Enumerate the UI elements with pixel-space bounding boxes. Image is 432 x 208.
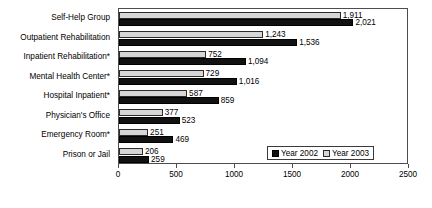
bar-value-label: 1,536 (297, 38, 320, 47)
bar-year-2003 (119, 70, 204, 77)
bar-row: 251 (119, 129, 407, 136)
x-axis-tick-label: 1000 (225, 170, 243, 179)
category-label: Prison or Jail (0, 150, 110, 159)
bar-row: 1,016 (119, 78, 407, 85)
bar-group: 7291,016 (119, 68, 407, 88)
bar-row: 587 (119, 90, 407, 97)
bar-value-label: 1,016 (237, 77, 260, 86)
y-axis-category-labels: Self-Help GroupOutpatient Rehabilitation… (0, 8, 114, 164)
bar-row: 2,021 (119, 19, 407, 26)
bar-row: 859 (119, 97, 407, 104)
bar-group: 587859 (119, 87, 407, 107)
bar-value-label: 259 (149, 155, 165, 164)
legend-entry[interactable]: Year 2003 (323, 149, 369, 158)
bar-value-label: 859 (219, 96, 235, 105)
bar-year-2002 (119, 156, 149, 163)
x-axis-tick-label: 0 (116, 170, 121, 179)
legend-swatch-icon (323, 150, 330, 157)
x-axis-tick (292, 164, 293, 168)
bar-group: 1,2431,536 (119, 29, 407, 49)
category-label: Self-Help Group (0, 13, 110, 22)
bar-year-2002 (119, 39, 297, 46)
bar-row: 729 (119, 70, 407, 77)
x-axis-tick (408, 164, 409, 168)
category-label: Mental Health Center* (0, 72, 110, 81)
bar-year-2003 (119, 31, 263, 38)
chart-legend: Year 2002Year 2003 (267, 146, 374, 160)
bar-group: 1,9112,021 (119, 9, 407, 29)
bar-value-label: 469 (173, 135, 189, 144)
x-axis-tick-label: 2500 (399, 170, 417, 179)
bar-row: 1,536 (119, 39, 407, 46)
bar-value-label: 523 (180, 116, 196, 125)
bar-year-2002 (119, 58, 246, 65)
x-axis-tick (350, 164, 351, 168)
bar-year-2003 (119, 12, 341, 19)
bar-group: 7521,094 (119, 48, 407, 68)
bar-year-2002 (119, 97, 219, 104)
category-label: Outpatient Rehabilitation (0, 33, 110, 42)
category-label: Inpatient Rehabilitation* (0, 52, 110, 61)
bar-value-label: 1,094 (246, 57, 269, 66)
x-axis-tick (234, 164, 235, 168)
bar-year-2002 (119, 19, 353, 26)
x-axis-tick-label: 500 (169, 170, 183, 179)
bar-year-2003 (119, 129, 148, 136)
legend-swatch-icon (272, 150, 279, 157)
bar-group: 377523 (119, 107, 407, 127)
bar-value-label: 2,021 (353, 18, 376, 27)
bar-row: 1,243 (119, 31, 407, 38)
bar-year-2003 (119, 148, 143, 155)
x-axis-tick (118, 164, 119, 168)
legend-entry[interactable]: Year 2002 (272, 149, 318, 158)
legend-label: Year 2003 (332, 149, 369, 158)
legend-label: Year 2002 (281, 149, 318, 158)
bar-year-2002 (119, 78, 237, 85)
bar-group: 251469 (119, 126, 407, 146)
bar-year-2003 (119, 51, 206, 58)
bar-row: 1,094 (119, 58, 407, 65)
x-axis-tick-label: 2000 (341, 170, 359, 179)
bar-row: 523 (119, 117, 407, 124)
x-axis-tick (176, 164, 177, 168)
x-axis-tick-label: 1500 (283, 170, 301, 179)
category-label: Emergency Room* (0, 130, 110, 139)
bar-chart: Self-Help GroupOutpatient Rehabilitation… (0, 0, 432, 208)
plot-area: 1,9112,0211,2431,5367521,0947291,0165878… (118, 8, 408, 164)
bar-row: 377 (119, 109, 407, 116)
bar-year-2003 (119, 109, 163, 116)
bar-row: 469 (119, 136, 407, 143)
bar-year-2002 (119, 136, 173, 143)
category-label: Physician's Office (0, 111, 110, 120)
bar-year-2002 (119, 117, 180, 124)
bar-year-2003 (119, 90, 187, 97)
x-axis: 05001000150020002500 (118, 164, 408, 194)
category-label: Hospital Inpatient* (0, 91, 110, 100)
